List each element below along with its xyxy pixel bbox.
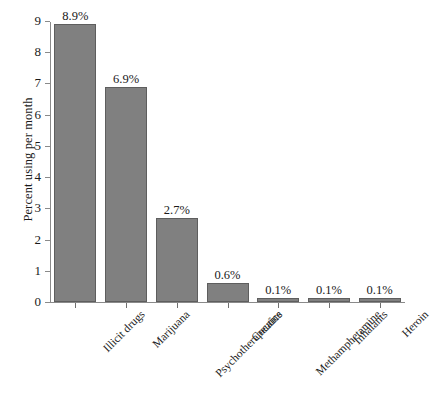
y-tick: 2 [45,240,50,241]
y-tick: 5 [45,146,50,147]
y-tick: 7 [45,83,50,84]
bar-value-label: 0.6% [214,268,240,282]
y-tick: 3 [45,208,50,209]
y-tick-label: 0 [35,293,42,311]
bar-value-label: 0.1% [265,283,291,297]
y-tick-label: 9 [35,12,42,30]
y-tick-label: 8 [35,43,42,61]
y-axis-line [50,22,51,303]
bar-value-label: 0.1% [367,283,393,297]
y-tick: 4 [45,177,50,178]
y-tick: 0 [45,302,50,303]
y-tick: 1 [45,271,50,272]
y-tick: 6 [45,115,50,116]
y-tick-label: 1 [35,262,42,280]
bar-value-label: 6.9% [113,72,139,86]
y-tick-label: 6 [35,106,42,124]
bar: 6.9% [105,87,147,302]
bar: 8.9% [54,24,96,302]
bar: 2.7% [156,218,198,302]
y-axis-title: Percent using per month [21,60,36,260]
bar: 0.1% [257,298,299,302]
bar: 0.1% [308,298,350,302]
bar: 0.1% [359,298,401,302]
y-tick-label: 3 [35,199,42,217]
x-axis-label: Marijuana [150,308,193,351]
x-axis-label: Illicit drugs [101,308,148,355]
y-tick: 8 [45,52,50,53]
bar: 0.6% [207,283,249,302]
x-axis-label: Cocaine [249,308,285,344]
x-axis-label: Heroin [399,308,431,340]
y-tick-label: 4 [35,168,42,186]
y-tick-label: 2 [35,231,42,249]
bar-value-label: 8.9% [62,9,88,23]
bar-value-label: 0.1% [316,283,342,297]
x-axis-labels: Illicit drugsMarijuanaPsychotherapeutics… [50,308,405,408]
plot-area: 0123456789 8.9%6.9%2.7%0.6%0.1%0.1%0.1% [50,22,405,303]
bar-value-label: 2.7% [164,203,190,217]
y-tick-label: 5 [35,137,42,155]
y-tick: 9 [45,21,50,22]
y-tick-label: 7 [35,74,42,92]
